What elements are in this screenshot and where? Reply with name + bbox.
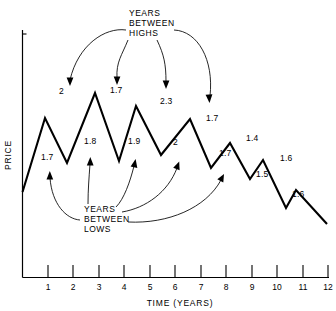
price-cycle-chart: 1 2 3 4 5 6 7 8 9 10 11 12 TIME (YEARS) … [0,0,336,311]
trailing-interval-label-1: 1.4 [246,133,258,143]
x-tick-labels: 1 2 3 4 5 6 7 8 9 10 11 12 [46,282,333,292]
lows-leader-3 [116,166,134,207]
trailing-interval-label-2: 1.5 [256,169,268,179]
highs-leader-3 [157,40,166,82]
x-tick-label-1: 1 [46,282,51,292]
x-tick-label-5: 5 [148,282,153,292]
x-tick-label-9: 9 [250,282,255,292]
trailing-interval-label-3: 1.6 [280,153,292,163]
years-between-lows-annotation: YEARS BETWEEN LOWS [47,157,225,234]
lows-label-line-1: YEARS [84,204,115,214]
x-tick-label-7: 7 [199,282,204,292]
high-interval-label-4: 1.7 [206,113,218,123]
highs-leader-2 [117,40,128,78]
highs-arrowhead-1 [67,78,74,86]
x-tick-label-10: 10 [272,282,282,292]
high-interval-label-2: 1.7 [110,85,122,95]
highs-label-line-1: YEARS [129,8,160,18]
trailing-interval-label-4: 1.6 [292,189,304,199]
chart-canvas: 1 2 3 4 5 6 7 8 9 10 11 12 TIME (YEARS) … [0,0,336,311]
lows-arrowhead-4 [173,162,179,171]
lows-leader-2 [88,164,90,204]
low-interval-label-5: 1.7 [219,148,231,158]
years-between-highs-annotation: YEARS BETWEEN HIGHS [67,8,213,103]
x-tick-label-11: 11 [299,282,308,292]
low-interval-label-1: 1.7 [41,152,53,162]
lows-leader-5 [128,180,221,222]
high-interval-labels: 2 1.7 2.3 1.7 [59,85,218,123]
lows-leader-4 [122,168,177,212]
lows-label-line-2: BETWEEN [84,214,130,224]
x-tick-label-4: 4 [122,282,127,292]
highs-arrowhead-3 [163,81,170,89]
high-interval-label-3: 2.3 [160,96,172,106]
high-interval-label-1: 2 [59,86,64,96]
low-interval-label-2: 1.8 [84,136,96,146]
x-axis-title: TIME (YEARS) [147,298,214,308]
lows-label-line-3: LOWS [84,224,111,234]
trailing-interval-labels: 1.4 1.5 1.6 1.6 [246,133,304,199]
highs-leader-4 [174,30,211,96]
highs-label-line-3: HIGHS [129,28,158,38]
highs-arrowhead-2 [114,77,121,85]
low-interval-label-4: 2 [173,137,178,147]
x-tick-label-8: 8 [224,282,229,292]
lows-leader-1 [50,178,80,220]
low-interval-label-3: 1.9 [128,136,140,146]
highs-label-line-2: BETWEEN [129,18,175,28]
highs-arrowhead-4 [206,94,213,103]
lows-arrowhead-2 [87,157,94,166]
x-tick-label-6: 6 [173,282,178,292]
highs-leader-1 [70,30,126,80]
x-tick-label-12: 12 [323,282,333,292]
y-axis-title: PRICE [3,140,13,170]
lows-arrowhead-3 [131,159,138,168]
x-tick-label-2: 2 [71,282,76,292]
lows-arrowhead-1 [47,171,54,180]
x-tick-label-3: 3 [97,282,102,292]
x-tick-marks [48,265,328,278]
